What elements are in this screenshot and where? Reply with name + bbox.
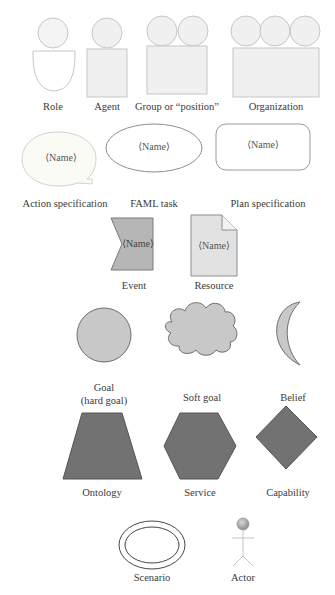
organization-shape (231, 16, 320, 97)
belief-shape (277, 302, 300, 365)
belief-label: Belief (268, 392, 318, 403)
group-label: Group or “position” (132, 101, 222, 112)
scenario-shape (119, 521, 185, 569)
action-spec-label: Action specification (10, 198, 120, 209)
role-label: Role (28, 101, 78, 112)
goal-sublabel: (hard goal) (72, 395, 136, 406)
event-label: Event (112, 280, 156, 291)
event-name-text: ⟨Name⟩ (118, 238, 158, 249)
group-shape (147, 16, 208, 94)
goal-label: Goal (72, 382, 136, 393)
scenario-label: Scenario (122, 572, 182, 583)
faml-task-name-text: ⟨Name⟩ (120, 141, 188, 152)
resource-name-text: ⟨Name⟩ (191, 240, 237, 251)
actor-label: Actor (220, 572, 266, 583)
ontology-shape (63, 413, 142, 479)
notation-diagram (0, 0, 335, 595)
capability-shape (256, 406, 317, 469)
faml-task-label: FAML task (120, 198, 188, 209)
action-spec-name-text: ⟨Name⟩ (28, 152, 94, 163)
goal-shape (77, 308, 131, 362)
resource-label: Resource (186, 280, 242, 291)
soft-goal-label: Soft goal (170, 392, 234, 403)
role-shape (33, 18, 75, 91)
ontology-label: Ontology (72, 487, 132, 498)
service-shape (164, 413, 236, 479)
plan-spec-label: Plan specification (218, 198, 318, 209)
agent-shape (87, 18, 127, 97)
organization-label: Organization (236, 101, 316, 112)
agent-label: Agent (82, 101, 132, 112)
plan-spec-name-text: ⟨Name⟩ (228, 139, 298, 150)
service-label: Service (170, 487, 230, 498)
actor-shape (232, 518, 254, 566)
capability-label: Capability (256, 487, 320, 498)
soft-goal-shape (165, 303, 237, 356)
